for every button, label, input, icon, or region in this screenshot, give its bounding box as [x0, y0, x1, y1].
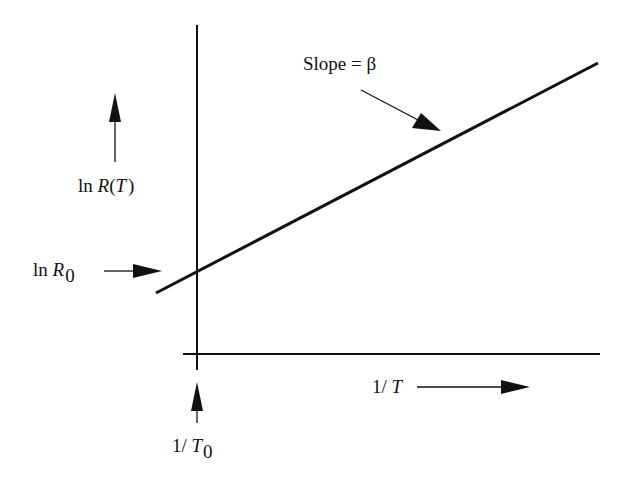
- y-axis-label: ln R(T): [78, 176, 134, 195]
- intercept-label: ln R0: [33, 260, 75, 279]
- intercept-prefix: ln: [33, 259, 53, 280]
- y-axis-var: R: [98, 175, 110, 196]
- y-axis-close: ): [128, 175, 134, 196]
- x-ref-arrow-icon: [191, 382, 203, 423]
- diagram-canvas: Slope = β ln R(T) ln R0 1/ T 1/ T0: [0, 0, 631, 481]
- y-axis-arg: T: [115, 175, 126, 196]
- x-axis-prefix: 1/: [372, 376, 392, 397]
- slope-label: Slope = β: [303, 54, 376, 73]
- intercept-var: R: [53, 259, 65, 280]
- y-direction-arrow-icon: [109, 93, 121, 162]
- slope-arrow-icon: [361, 90, 441, 131]
- slope-text: Slope = β: [303, 53, 376, 74]
- x-axis-var: T: [392, 376, 403, 397]
- x-axis-label: 1/ T: [372, 377, 402, 396]
- intercept-arrow-icon: [104, 264, 162, 278]
- x-ref-label: 1/ T0: [172, 436, 213, 455]
- x-direction-arrow-icon: [417, 380, 530, 394]
- intercept-sub: 0: [65, 265, 75, 286]
- x-ref-var: T: [192, 435, 203, 456]
- data-line: [156, 63, 598, 293]
- x-ref-sub: 0: [203, 441, 213, 462]
- x-ref-prefix: 1/: [172, 435, 192, 456]
- y-axis-prefix: ln: [78, 175, 98, 196]
